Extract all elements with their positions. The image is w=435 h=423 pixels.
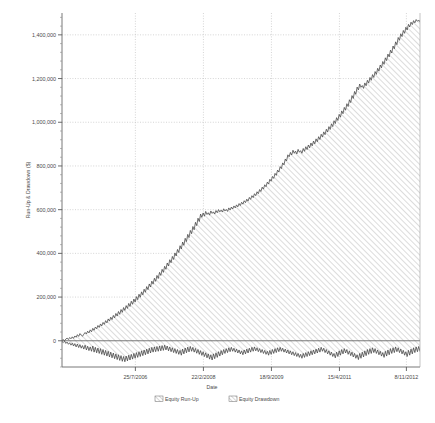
chart-canvas: 0200,000400,000600,000800,0001,000,0001,… — [0, 0, 435, 423]
y-tick-label: 400,000 — [37, 250, 57, 256]
y-tick-label: 1,200,000 — [32, 76, 56, 82]
legend-swatch — [155, 396, 163, 402]
equity-runup-drawdown-chart: 0200,000400,000600,000800,0001,000,0001,… — [0, 0, 435, 423]
y-axis-minor-ticks — [60, 17, 62, 367]
x-tick-label: 15/4/2011 — [328, 374, 352, 380]
x-tick-label: 22/2/2008 — [191, 374, 215, 380]
y-tick-label: 0 — [53, 338, 56, 344]
y-axis-title: Run-Up & Drawdown ($) — [25, 161, 31, 218]
chart-legend: Equity Run-UpEquity Drawdown — [155, 396, 279, 402]
y-tick-label: 600,000 — [37, 207, 57, 213]
legend-swatch — [229, 396, 237, 402]
y-tick-label: 1,000,000 — [32, 119, 56, 125]
y-tick-label: 1,400,000 — [32, 32, 56, 38]
legend-label: Equity Drawdown — [239, 396, 279, 402]
legend-item[interactable]: Equity Run-Up — [155, 396, 199, 402]
y-tick-label: 200,000 — [37, 294, 57, 300]
y-axis-ticks: 0200,000400,000600,000800,0001,000,0001,… — [32, 32, 62, 344]
x-tick-label: 18/9/2009 — [259, 374, 283, 380]
x-tick-label: 25/7/2006 — [123, 374, 147, 380]
y-tick-label: 800,000 — [37, 163, 57, 169]
x-axis-title: Date — [207, 384, 218, 390]
legend-item[interactable]: Equity Drawdown — [229, 396, 279, 402]
x-tick-label: 8/11/2012 — [395, 374, 419, 380]
x-axis-ticks: 25/7/200622/2/200818/9/200915/4/20118/11… — [123, 367, 418, 380]
legend-label: Equity Run-Up — [165, 396, 199, 402]
